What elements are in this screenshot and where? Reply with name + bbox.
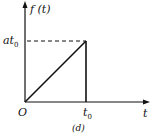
origin-label: O	[18, 106, 27, 119]
caption: (d)	[72, 123, 85, 133]
x-axis-arrow-icon	[143, 100, 150, 105]
y-axis-label: f (t)	[29, 3, 51, 16]
x-axis-label: t	[143, 107, 148, 120]
x-tick-label: t0	[83, 106, 92, 121]
ramp-line	[25, 41, 86, 102]
y-axis-arrow-icon	[23, 1, 28, 8]
ramp-function-diagram: f (t) at0 O t0 t (d)	[0, 0, 156, 139]
y-tick-label: at0	[3, 34, 18, 49]
